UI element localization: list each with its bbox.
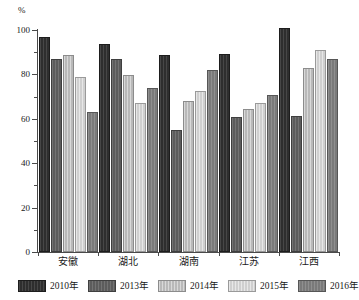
legend-label-2016年: 2016年 xyxy=(330,281,359,291)
bar-安徽-2015年 xyxy=(75,77,86,252)
bar-湖南-2010年 xyxy=(159,55,170,252)
legend-swatch-2013年 xyxy=(88,280,116,292)
bar-group-湖北 xyxy=(98,30,158,252)
bar-groups xyxy=(38,30,339,252)
bar-group-江西 xyxy=(279,30,339,252)
bar-江苏-2014年 xyxy=(243,109,254,252)
bar-湖北-2010年 xyxy=(99,44,110,252)
bar-江苏-2013年 xyxy=(231,117,242,252)
chart-legend: 2010年2013年2014年2015年2016年 xyxy=(18,277,338,295)
legend-swatch-2010年 xyxy=(18,280,46,292)
bar-江苏-2010年 xyxy=(219,54,230,252)
legend-label-2013年: 2013年 xyxy=(120,281,149,291)
bar-湖南-2016年 xyxy=(207,70,218,252)
legend-swatch-2015年 xyxy=(228,280,256,292)
bar-group-江苏 xyxy=(219,30,279,252)
bar-group-湖南 xyxy=(158,30,218,252)
bar-江西-2015年 xyxy=(315,50,326,252)
category-label-江苏: 江苏 xyxy=(219,255,279,271)
bar-江西-2014年 xyxy=(303,68,314,252)
bar-湖南-2013年 xyxy=(171,130,182,252)
category-label-江西: 江西 xyxy=(279,255,339,271)
bar-江西-2016年 xyxy=(327,59,338,252)
y-axis-label-60: 60 xyxy=(0,115,30,124)
category-label-湖北: 湖北 xyxy=(98,255,158,271)
bar-江苏-2016年 xyxy=(267,95,278,252)
x-axis-category-labels: 安徽湖北湖南江苏江西 xyxy=(38,255,339,271)
legend-item-2015年[interactable]: 2015年 xyxy=(228,280,289,292)
y-axis-label-40: 40 xyxy=(0,159,30,168)
legend-label-2010年: 2010年 xyxy=(50,281,79,291)
y-axis-label-80: 80 xyxy=(0,70,30,79)
bar-安徽-2014年 xyxy=(63,55,74,252)
legend-item-2010年[interactable]: 2010年 xyxy=(18,280,79,292)
bar-湖南-2015年 xyxy=(195,91,206,252)
y-axis-label-20: 20 xyxy=(0,204,30,213)
legend-item-2016年[interactable]: 2016年 xyxy=(298,280,359,292)
bar-江苏-2015年 xyxy=(255,103,266,252)
bar-湖北-2016年 xyxy=(147,88,158,252)
bar-group-安徽 xyxy=(38,30,98,252)
category-label-安徽: 安徽 xyxy=(38,255,98,271)
bar-安徽-2010年 xyxy=(39,37,50,252)
bar-湖北-2015年 xyxy=(135,103,146,252)
bar-湖北-2013年 xyxy=(111,59,122,252)
y-axis-tick-labels: 020406080100 xyxy=(0,0,30,300)
bar-湖北-2014年 xyxy=(123,75,134,252)
y-axis-label-0: 0 xyxy=(0,248,30,257)
bar-安徽-2013年 xyxy=(51,59,62,252)
bar-安徽-2016年 xyxy=(87,112,98,252)
bar-江西-2010年 xyxy=(279,28,290,252)
legend-label-2014年: 2014年 xyxy=(190,281,219,291)
legend-item-2014年[interactable]: 2014年 xyxy=(158,280,219,292)
legend-item-2013年[interactable]: 2013年 xyxy=(88,280,149,292)
category-label-湖南: 湖南 xyxy=(158,255,218,271)
legend-swatch-2014年 xyxy=(158,280,186,292)
legend-swatch-2016年 xyxy=(298,280,326,292)
y-axis-label-100: 100 xyxy=(0,26,30,35)
x-tick-5 xyxy=(339,252,340,256)
bar-江西-2013年 xyxy=(291,116,302,252)
bar-湖南-2014年 xyxy=(183,101,194,252)
x-axis-line xyxy=(37,252,340,253)
legend-label-2015年: 2015年 xyxy=(260,281,289,291)
